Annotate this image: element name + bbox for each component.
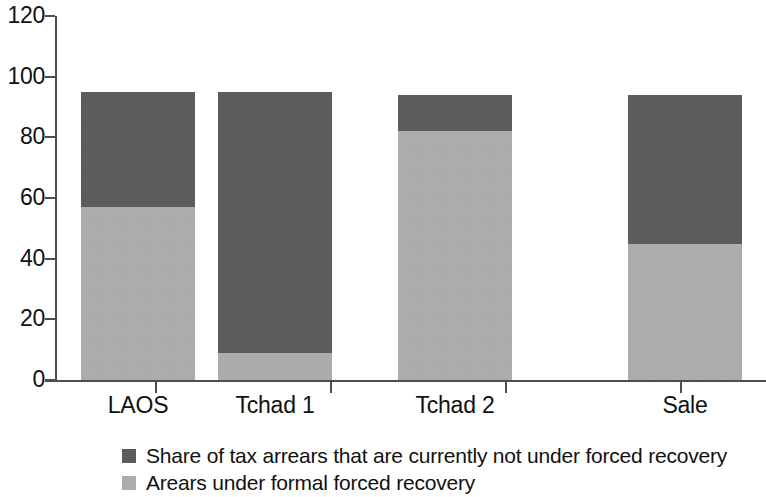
bar-segment-under-formal-forced-recovery[interactable]: [398, 131, 512, 380]
bar-column[interactable]: [218, 92, 332, 380]
bar-segment-not-under-forced-recovery[interactable]: [398, 95, 512, 131]
bar-segment-under-formal-forced-recovery[interactable]: [81, 207, 195, 380]
chart-legend: Share of tax arrears that are currently …: [122, 443, 742, 497]
y-axis-tick-label: 60: [3, 186, 45, 209]
bar-segment-not-under-forced-recovery[interactable]: [81, 92, 195, 207]
x-axis-category-label: LAOS: [81, 392, 195, 419]
y-axis-tick: [45, 197, 55, 199]
bar-segment-not-under-forced-recovery[interactable]: [218, 92, 332, 353]
x-axis-category-label: Tchad 1: [218, 392, 332, 419]
y-axis-tick-label: 100: [3, 65, 45, 88]
legend-swatch-icon: [122, 476, 136, 490]
y-axis-tick-label: 0: [3, 368, 45, 391]
bar-column[interactable]: [81, 92, 195, 380]
legend-item[interactable]: Arears under formal forced recovery: [122, 470, 742, 495]
bar-segment-under-formal-forced-recovery[interactable]: [218, 353, 332, 380]
y-axis-tick: [45, 318, 55, 320]
y-axis-tick-label: 120: [3, 4, 45, 27]
bar-column[interactable]: [628, 95, 742, 380]
y-axis-tick-label: 20: [3, 307, 45, 330]
legend-swatch-icon: [122, 449, 136, 463]
y-axis-tick-label: 80: [3, 125, 45, 148]
y-axis-tick: [45, 136, 55, 138]
bar-segment-under-formal-forced-recovery[interactable]: [628, 244, 742, 381]
y-axis-tick-label: 40: [3, 247, 45, 270]
x-axis-line: [45, 380, 766, 382]
x-axis-category-label: Tchad 2: [398, 392, 512, 419]
legend-label: Arears under formal forced recovery: [146, 471, 475, 495]
x-axis-category-label: Sale: [628, 392, 742, 419]
bar-segment-not-under-forced-recovery[interactable]: [628, 95, 742, 244]
y-axis-tick: [45, 76, 55, 78]
y-axis-tick: [45, 15, 55, 17]
legend-item[interactable]: Share of tax arrears that are currently …: [122, 443, 742, 468]
bar-column[interactable]: [398, 95, 512, 380]
plot-area: [55, 16, 766, 380]
legend-label: Share of tax arrears that are currently …: [146, 444, 727, 468]
y-axis-tick: [45, 258, 55, 260]
